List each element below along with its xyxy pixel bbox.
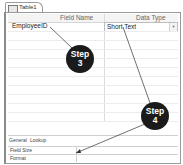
tab-lookup[interactable]: Lookup: [30, 137, 46, 143]
table-design-view: Field Name Data Type EmployeeID Short Te…: [4, 12, 181, 164]
property-row-field-size[interactable]: Field Size: [8, 146, 178, 154]
column-header-field-name[interactable]: Field Name: [60, 14, 93, 21]
column-header-data-type[interactable]: Data Type: [136, 14, 166, 21]
property-row-format[interactable]: Format: [8, 154, 178, 162]
row-divider: [8, 31, 178, 32]
tab-general[interactable]: General: [9, 137, 27, 143]
property-label: Format: [10, 155, 26, 161]
row-divider: [8, 94, 178, 95]
row-divider: [8, 85, 178, 86]
tab-label: Table1: [19, 4, 37, 10]
property-divider: [76, 147, 77, 154]
property-divider: [76, 155, 77, 162]
callout-number: 4: [141, 116, 169, 125]
row-divider: [8, 76, 178, 77]
properties-divider: [8, 135, 178, 136]
step-3-callout: Step 3: [66, 45, 94, 73]
step-4-callout: Step 4: [141, 102, 169, 130]
row-divider: [8, 40, 178, 41]
property-label: Field Size: [10, 147, 32, 153]
data-type-value: Short Text: [107, 23, 136, 30]
chevron-down-icon[interactable]: ▼: [169, 23, 177, 31]
field-name-cell[interactable]: EmployeeID: [12, 22, 47, 29]
callout-number: 3: [66, 59, 94, 68]
